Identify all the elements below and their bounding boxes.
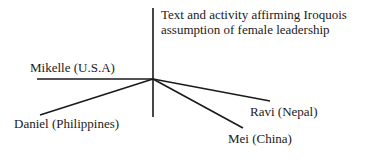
node-label-ravi: Ravi (Nepal) — [250, 104, 318, 119]
mei-line — [153, 79, 243, 128]
center-concept-line-1: Text and activity affirming Iroquois — [161, 7, 361, 22]
node-label-mei: Mei (China) — [228, 131, 292, 146]
node-label-mikelle: Mikelle (U.S.A) — [30, 60, 115, 75]
center-concept-label: Text and activity affirming Iroquois ass… — [161, 7, 361, 37]
ravi-line — [153, 79, 270, 101]
node-label-daniel: Daniel (Philippines) — [14, 116, 119, 131]
daniel-line — [40, 79, 153, 115]
center-concept-line-2: assumption of female leadership — [161, 22, 361, 37]
